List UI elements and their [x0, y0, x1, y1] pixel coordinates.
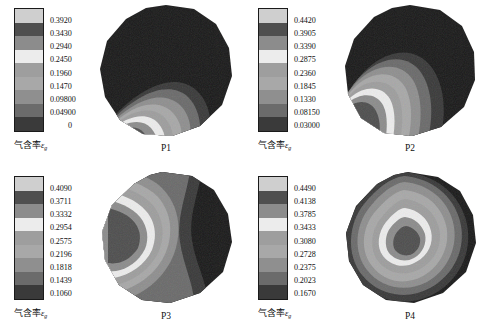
tick-label: 0.04900 [50, 108, 76, 117]
contour-plot-p1 [96, 2, 236, 142]
tick-label: 0.2375 [294, 263, 316, 272]
tick-label: 0.4090 [50, 184, 72, 193]
colorbar-band [259, 258, 287, 272]
tick-label: 0.3390 [294, 42, 316, 51]
tick-label: 0.3332 [50, 210, 72, 219]
plot-title-p3: P3 [96, 311, 236, 321]
colorbar-p3 [14, 176, 44, 300]
tick-label: 0.2023 [294, 276, 316, 285]
tick-label: 0.2728 [294, 250, 316, 259]
colorbar-band [15, 191, 43, 205]
tick-label: 0.4490 [294, 184, 316, 193]
tick-label: 0.2360 [294, 69, 316, 78]
colorbar-subscript: g [288, 145, 291, 151]
colorbar-band [259, 231, 287, 245]
colorbar-band [259, 77, 287, 91]
plot-title-p2: P2 [340, 143, 480, 153]
contour-plot-p4 [340, 170, 480, 310]
tick-label: 0.3711 [50, 197, 71, 206]
colorbar-band [259, 9, 287, 23]
panel-p4: 0.4490 0.4138 0.3785 0.3433 0.3080 0.272… [244, 168, 488, 335]
tick-label: 0.1330 [294, 95, 316, 104]
colorbar-band [259, 63, 287, 77]
colorbar-band [259, 117, 287, 131]
colorbar-subscript: g [44, 145, 47, 151]
colorbar-band [259, 36, 287, 50]
colorbar-band [15, 90, 43, 104]
colorbar-band [259, 204, 287, 218]
colorbar-band [259, 285, 287, 299]
colorbar-band [15, 258, 43, 272]
colorbar-label-text: 气含率 [14, 140, 41, 150]
colorbar-axis-label-p2: 气含率εg [258, 138, 291, 151]
colorbar-axis-label-p1: 气含率εg [14, 138, 47, 151]
plot-title-p4: P4 [340, 311, 480, 321]
tick-label: 0.1470 [50, 82, 72, 91]
tick-label: 0.3905 [294, 29, 316, 38]
colorbar-band [15, 77, 43, 91]
tick-label: 0.2954 [50, 223, 72, 232]
colorbar-subscript: g [288, 313, 291, 319]
colorbar-axis-label-p3: 气含率εg [14, 306, 47, 319]
plot-title-p1: P1 [96, 143, 236, 153]
colorbar-band [15, 231, 43, 245]
tick-label: 0.2450 [50, 55, 72, 64]
tick-label: 0.4138 [294, 197, 316, 206]
colorbar-band [15, 117, 43, 131]
panel-p1: 0.3920 0.3430 0.2940 0.2450 0.1960 0.147… [0, 0, 244, 167]
tick-label: 0.1670 [294, 289, 316, 298]
colorbar-ticks-p2: 0.4420 0.3905 0.3390 0.2875 0.2360 0.184… [294, 8, 346, 132]
colorbar-band [259, 299, 287, 300]
tick-label: 0.08150 [294, 108, 320, 117]
colorbar-band [259, 50, 287, 64]
colorbar-band [259, 272, 287, 286]
tick-label: 0.1060 [50, 289, 72, 298]
colorbar-band [15, 218, 43, 232]
colorbar-band [15, 104, 43, 118]
colorbar-label-text: 气含率 [14, 308, 41, 318]
tick-label: 0.3433 [294, 223, 316, 232]
tick-label: 0.1960 [50, 69, 72, 78]
tick-label: 0.1818 [50, 263, 72, 272]
colorbar-band [259, 23, 287, 37]
colorbar-band [15, 63, 43, 77]
colorbar-p1 [14, 8, 44, 132]
colorbar-band [15, 23, 43, 37]
colorbar-ticks-p4: 0.4490 0.4138 0.3785 0.3433 0.3080 0.272… [294, 176, 346, 300]
colorbar-band [15, 36, 43, 50]
colorbar-ticks-p1: 0.3920 0.3430 0.2940 0.2450 0.1960 0.147… [50, 8, 102, 132]
tick-label: 0.03000 [294, 121, 320, 130]
tick-label: 0 [68, 121, 72, 130]
colorbar-band [15, 204, 43, 218]
colorbar-p4 [258, 176, 288, 300]
colorbar-axis-label-p4: 气含率εg [258, 306, 291, 319]
contour-plot-p3 [96, 170, 236, 310]
colorbar-band [15, 131, 43, 132]
tick-label: 0.3430 [50, 29, 72, 38]
colorbar-band [15, 177, 43, 191]
colorbar-band [259, 131, 287, 132]
tick-label: 0.3080 [294, 237, 316, 246]
colorbar-band [259, 104, 287, 118]
panel-p3: 0.4090 0.3711 0.3332 0.2954 0.2575 0.219… [0, 168, 244, 335]
tick-label: 0.2196 [50, 250, 72, 259]
colorbar-band [259, 245, 287, 259]
colorbar-band [15, 272, 43, 286]
tick-label: 0.2875 [294, 55, 316, 64]
colorbar-band [259, 191, 287, 205]
contour-plot-p2 [340, 2, 480, 142]
colorbar-band [15, 285, 43, 299]
colorbar-band [259, 177, 287, 191]
colorbar-band [15, 9, 43, 23]
colorbar-band [15, 245, 43, 259]
colorbar-band [259, 90, 287, 104]
tick-label: 0.2575 [50, 237, 72, 246]
colorbar-band [15, 299, 43, 300]
colorbar-band [259, 218, 287, 232]
contour-figure: 0.3920 0.3430 0.2940 0.2450 0.1960 0.147… [0, 0, 488, 335]
tick-label: 0.3785 [294, 210, 316, 219]
colorbar-ticks-p3: 0.4090 0.3711 0.3332 0.2954 0.2575 0.219… [50, 176, 102, 300]
tick-label: 0.1845 [294, 82, 316, 91]
tick-label: 0.1439 [50, 276, 72, 285]
tick-label: 0.4420 [294, 16, 316, 25]
